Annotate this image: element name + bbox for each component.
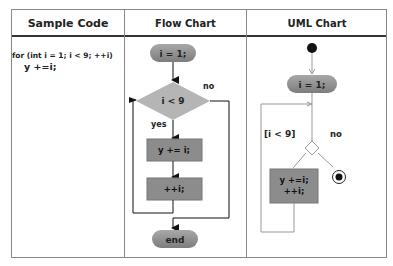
uml-decision-node [305,141,319,155]
uml-init-label: i = 1; [299,80,326,90]
diagram-canvas: i = 1; i < 9 no yes y += i; ++i; end i =… [0,0,393,266]
uml-action-line2: ++i; [284,186,305,196]
uml-guard-label: [i < 9] [264,129,295,139]
flow-chart: i = 1; i < 9 no yes y += i; ++i; end [133,44,229,248]
flow-body-label: y += i; [158,145,190,155]
uml-initial-node [307,43,317,53]
flow-yes-label: yes [151,120,167,129]
flow-no-label: no [203,82,215,91]
uml-action-line1: y +=i; [279,175,308,185]
flow-start-label: i = 1; [160,49,187,59]
uml-no-label: no [330,129,342,139]
flow-condition-label: i < 9 [161,96,184,106]
flow-increment-label: ++i; [164,184,185,194]
uml-chart: i = 1; [i < 9] no y +=i; ++i; [261,43,346,232]
flow-end-label: end [166,235,185,245]
